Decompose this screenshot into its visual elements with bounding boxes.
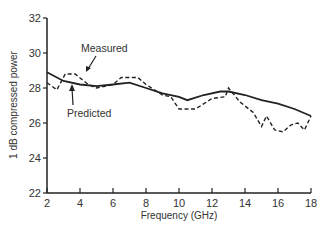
x-tick-label: 2 [44, 197, 50, 209]
y-tick-label: 28 [29, 82, 41, 94]
y-axis-ticks: 222426283032 [29, 12, 47, 199]
y-tick-label: 24 [29, 152, 41, 164]
x-axis-ticks: 24681012141618 [44, 188, 317, 209]
y-tick-label: 32 [29, 12, 41, 24]
line-chart: 24681012141618 222426283032 Measured Pre… [0, 0, 325, 235]
x-tick-label: 6 [110, 197, 116, 209]
measured-label: Measured [81, 42, 128, 54]
x-tick-label: 4 [77, 197, 83, 209]
predicted-arrowhead-icon [69, 84, 75, 91]
predicted-label: Predicted [67, 107, 112, 119]
x-tick-label: 14 [239, 197, 251, 209]
measured-arrow-line [88, 56, 96, 69]
x-axis-title: Frequency (GHz) [141, 210, 218, 221]
y-tick-label: 22 [29, 187, 41, 199]
measured-arrowhead-icon [86, 66, 91, 72]
x-tick-label: 10 [173, 197, 185, 209]
x-tick-label: 16 [272, 197, 284, 209]
y-axis-title: 1 dB compressed power [8, 50, 19, 159]
x-tick-label: 18 [305, 197, 317, 209]
y-tick-label: 30 [29, 47, 41, 59]
y-tick-label: 26 [29, 117, 41, 129]
x-tick-label: 8 [143, 197, 149, 209]
x-tick-label: 12 [206, 197, 218, 209]
